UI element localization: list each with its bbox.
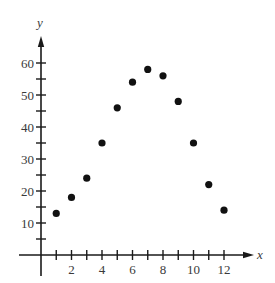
data-point	[53, 210, 60, 217]
x-tick-label: 10	[187, 262, 200, 277]
y-tick-label: 60	[21, 56, 34, 71]
y-tick-label: 20	[21, 184, 34, 199]
data-point	[83, 175, 90, 182]
x-tick-label: 8	[160, 262, 167, 277]
data-point	[159, 72, 166, 79]
data-point	[68, 194, 75, 201]
y-tick-label: 50	[21, 88, 34, 103]
y-axis-arrow-icon	[38, 36, 44, 47]
axis-ticks	[36, 63, 224, 260]
data-point	[129, 79, 136, 86]
scatter-chart: 24681012102030405060 x y	[0, 0, 275, 283]
x-tick-label: 12	[218, 262, 231, 277]
axes	[19, 36, 254, 276]
x-tick-label: 4	[99, 262, 106, 277]
data-points	[53, 66, 228, 217]
data-point	[114, 104, 121, 111]
y-tick-label: 30	[21, 152, 34, 167]
tick-labels: 24681012102030405060	[21, 56, 231, 278]
y-axis-label: y	[35, 15, 43, 30]
y-tick-label: 10	[21, 216, 34, 231]
x-tick-label: 2	[68, 262, 75, 277]
x-axis-arrow-icon	[243, 252, 254, 258]
data-point	[98, 139, 105, 146]
y-tick-label: 40	[21, 120, 34, 135]
data-point	[190, 139, 197, 146]
data-point	[220, 207, 227, 214]
x-axis-label: x	[256, 247, 263, 262]
x-tick-label: 6	[129, 262, 136, 277]
data-point	[175, 98, 182, 105]
data-point	[144, 66, 151, 73]
data-point	[205, 181, 212, 188]
